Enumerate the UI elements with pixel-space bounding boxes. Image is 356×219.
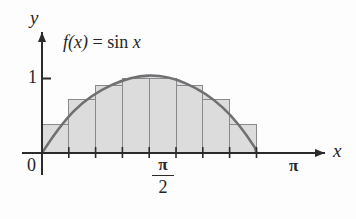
function-name-part: f(x) — [63, 32, 88, 52]
riemann-rectangles-group — [42, 79, 257, 154]
x-axis-label: x — [333, 141, 341, 160]
function-equals-sign: = — [92, 32, 102, 52]
figure-canvas: y x 1 0 π 2 π f(x) = sin x — [0, 0, 356, 219]
origin-label-zero: 0 — [27, 156, 36, 174]
riemann-rectangle-7 — [203, 99, 230, 153]
y-tick-label-one: 1 — [28, 68, 37, 86]
pi-over-two-denominator: 2 — [148, 176, 178, 198]
function-sin-operator: sin — [107, 32, 128, 52]
sine-upper-sum-plot — [0, 0, 356, 219]
function-argument: x — [133, 32, 141, 52]
riemann-rectangle-3 — [96, 85, 123, 153]
x-tick-label-pi: π — [289, 157, 298, 174]
riemann-rectangle-6 — [176, 85, 203, 153]
function-annotation: f(x) = sin x — [63, 33, 141, 51]
riemann-rectangle-4 — [122, 79, 149, 154]
riemann-rectangle-5 — [149, 79, 176, 154]
y-axis-label: y — [30, 8, 38, 27]
x-tick-label-pi-over-two: π 2 — [148, 156, 178, 198]
pi-over-two-numerator: π — [148, 156, 178, 175]
x-axis-arrowhead — [315, 149, 325, 157]
y-axis-arrowhead — [38, 32, 46, 42]
riemann-rectangle-2 — [69, 99, 96, 153]
